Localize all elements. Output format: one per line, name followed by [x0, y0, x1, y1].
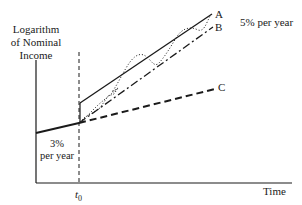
x-axis-label: Time	[263, 185, 286, 197]
post-t0-rate-label: 5% per year	[240, 16, 293, 28]
pre-t0-rate-label: 3% per year	[40, 138, 74, 162]
line-c	[79, 89, 215, 123]
t0-label-sub: 0	[78, 194, 82, 203]
income-growth-diagram: Logarithm of Nominal Income 3% per year …	[0, 0, 302, 205]
oscillating-path	[82, 16, 210, 120]
y-axis-label-line-3: Income	[2, 49, 70, 62]
y-axis-label: Logarithm of Nominal Income	[2, 23, 70, 62]
line-a	[80, 14, 212, 103]
y-axis-label-line-2: of Nominal	[2, 36, 70, 49]
line-b-label: B	[215, 21, 222, 33]
t0-label: t0	[75, 188, 82, 205]
pre-t0-rate-unit: per year	[40, 150, 74, 162]
line-a-label: A	[215, 8, 223, 20]
line-c-label: C	[218, 81, 225, 93]
pre-t0-growth-line	[36, 123, 79, 133]
line-b	[79, 27, 213, 123]
y-axis-label-line-1: Logarithm	[2, 23, 70, 36]
pre-t0-rate-value: 3%	[40, 138, 74, 150]
